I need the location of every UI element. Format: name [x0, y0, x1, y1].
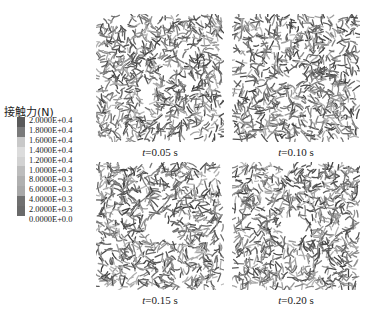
colorbar-ticks: 2.0000E+0.4 1.8000E+0.4 1.6000E+0.4 1.40… [29, 116, 72, 225]
simulation-panel-4 [232, 162, 360, 290]
simulation-panel-1 [96, 14, 224, 142]
caption-1: t=0.05 s [96, 146, 224, 158]
tick-label: 6.0000E+0.3 [29, 185, 72, 195]
caption-4: t=0.20 s [232, 294, 360, 306]
simulation-panel-3 [96, 162, 224, 290]
tick-label: 1.4000E+0.4 [29, 146, 72, 156]
caption-2: t=0.10 s [232, 146, 360, 158]
tick-label: 0.0000E+0.0 [29, 215, 72, 225]
tick-label: 1.0000E+0.4 [29, 166, 72, 176]
tick-label: 2.0000E+0.4 [29, 116, 72, 126]
tick-label: 8.0000E+0.3 [29, 175, 72, 185]
caption-3: t=0.15 s [96, 294, 224, 306]
colorbar [17, 117, 25, 216]
tick-label: 1.2000E+0.4 [29, 156, 72, 166]
tick-label: 1.8000E+0.4 [29, 126, 72, 136]
tick-label: 2.0000E+0.3 [29, 205, 72, 215]
tick-label: 1.6000E+0.4 [29, 136, 72, 146]
tick-label: 4.0000E+0.3 [29, 195, 72, 205]
simulation-panel-2 [232, 14, 360, 142]
